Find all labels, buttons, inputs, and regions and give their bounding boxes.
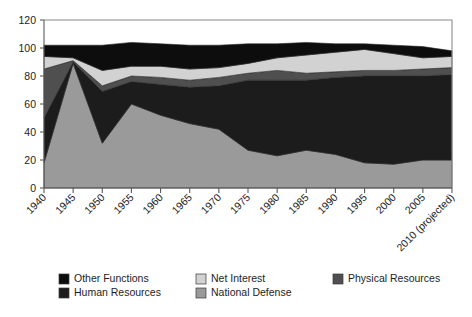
plot-areas-group [44,42,452,188]
legend-swatch-net-interest [196,274,206,284]
legend-swatch-other-functions [59,274,69,284]
legend-label-other-functions: Other Functions [74,272,149,284]
y-tick-label: 20 [24,154,36,166]
legend-label-human-resources: Human Resources [74,286,161,298]
legend-swatch-human-resources [59,288,69,298]
legend-label-physical-resources: Physical Resources [348,272,440,284]
legend-swatch-national-defense [196,288,206,298]
legend-label-national-defense: National Defense [211,286,292,298]
legend-label-net-interest: Net Interest [211,272,265,284]
y-tick-label: 80 [24,70,36,82]
y-tick-label: 40 [24,126,36,138]
y-tick-label: 120 [18,14,36,26]
legend-swatch-physical-resources [333,274,343,284]
y-tick-label: 60 [24,98,36,110]
stacked-area-chart: 020406080100120 194019451950195519601965… [0,0,472,317]
y-tick-label: 0 [30,182,36,194]
y-tick-label: 100 [18,42,36,54]
